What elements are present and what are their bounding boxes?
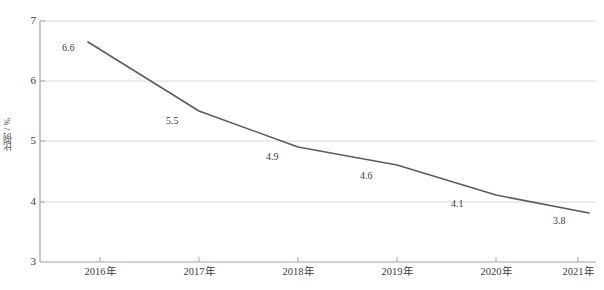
data-label-2016: 6.6 — [62, 42, 75, 53]
data-label-2019: 4.6 — [360, 170, 373, 181]
y-axis-ticks — [40, 21, 45, 202]
y-tick-label-4: 4 — [14, 196, 36, 207]
data-series-line — [88, 42, 589, 213]
y-tick-label-6: 6 — [14, 75, 36, 86]
x-tick-label-2017: 2017年 — [164, 266, 234, 278]
data-label-2017: 5.5 — [166, 115, 179, 126]
x-tick-label-2021: 2021年 — [543, 266, 604, 278]
y-tick-label-7: 7 — [14, 15, 36, 26]
x-tick-label-2016: 2016年 — [65, 266, 135, 278]
y-tick-label-3: 3 — [14, 256, 36, 267]
data-label-2021: 3.8 — [553, 215, 566, 226]
x-tick-label-2018: 2018年 — [263, 266, 333, 278]
data-label-2020: 4.1 — [451, 198, 464, 209]
data-label-2018: 4.9 — [266, 151, 279, 162]
x-tick-label-2020: 2020年 — [461, 266, 531, 278]
plot-area — [0, 0, 604, 290]
bottom-caption — [232, 281, 604, 290]
x-axis-ticks — [100, 257, 578, 262]
line-chart: 比例 / % — [0, 0, 604, 290]
x-tick-label-2019: 2019年 — [362, 266, 432, 278]
gridlines — [40, 21, 596, 202]
y-tick-label-5: 5 — [14, 135, 36, 146]
